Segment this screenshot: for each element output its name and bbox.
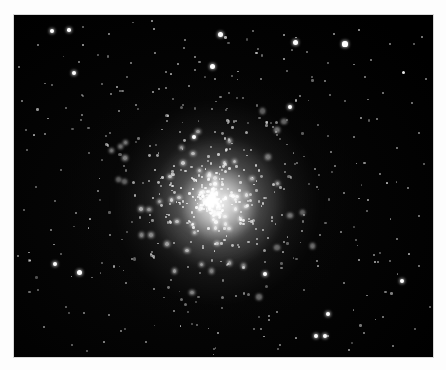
cluster-star: [238, 189, 241, 192]
cluster-star: [209, 195, 212, 198]
cluster-star: [211, 188, 213, 190]
cluster-star: [318, 174, 320, 176]
cluster-star: [275, 223, 276, 224]
halo-star: [311, 76, 313, 78]
halo-star: [386, 182, 388, 184]
cluster-star: [295, 258, 297, 260]
cluster-star: [230, 191, 233, 194]
cluster-star: [117, 178, 120, 181]
cluster-star: [203, 201, 207, 205]
cluster-star: [209, 202, 211, 204]
halo-star: [217, 332, 220, 335]
cluster-star: [290, 176, 293, 179]
cluster-star: [121, 239, 123, 241]
cluster-star: [253, 184, 255, 186]
cluster-star: [221, 209, 224, 212]
cluster-star: [244, 205, 248, 209]
cluster-star: [218, 230, 220, 232]
cluster-star: [261, 205, 262, 206]
cluster-star: [202, 245, 203, 246]
halo-star: [258, 316, 260, 318]
cluster-star: [210, 198, 212, 200]
halo-star: [389, 260, 391, 262]
cluster-star: [186, 222, 189, 225]
halo-star: [295, 37, 297, 39]
cluster-star: [211, 199, 213, 201]
halo-star: [73, 226, 74, 227]
cluster-star: [301, 230, 303, 232]
cluster-star: [258, 200, 260, 202]
cluster-star: [191, 211, 194, 214]
cluster-star: [226, 108, 227, 109]
halo-star: [374, 261, 375, 262]
cluster-star: [256, 243, 258, 245]
cluster-star: [252, 219, 255, 222]
cluster-star: [210, 198, 213, 201]
cluster-star: [211, 199, 214, 202]
cluster-star: [209, 200, 211, 202]
cluster-star: [293, 257, 295, 259]
halo-star: [71, 276, 73, 278]
cluster-star: [250, 177, 253, 180]
cluster-star: [243, 292, 245, 294]
cluster-star: [209, 198, 212, 201]
cluster-star: [238, 201, 240, 203]
cluster-star: [221, 211, 223, 213]
cluster-star: [239, 217, 242, 220]
cluster-star: [221, 296, 224, 299]
halo-star: [390, 292, 393, 295]
cluster-star: [202, 198, 206, 202]
cluster-star: [220, 242, 223, 245]
cluster-star: [142, 182, 144, 184]
halo-star: [329, 94, 331, 96]
cluster-star: [179, 131, 181, 133]
cluster-star: [213, 200, 216, 203]
cluster-star: [212, 197, 214, 199]
cluster-star: [152, 255, 155, 258]
cluster-star: [199, 191, 203, 195]
cluster-star: [229, 148, 231, 150]
cluster-star: [242, 223, 244, 225]
cluster-star: [166, 120, 168, 122]
cluster-star: [211, 203, 215, 207]
cluster-star: [185, 249, 188, 252]
photo-page: [0, 0, 446, 370]
cluster-star: [211, 204, 214, 207]
halo-star: [308, 100, 310, 102]
cluster-star: [212, 214, 215, 217]
cluster-star: [216, 207, 219, 210]
cluster-star: [301, 132, 304, 135]
cluster-star: [169, 220, 171, 222]
cluster-star: [234, 196, 235, 197]
cluster-star: [211, 192, 213, 194]
cluster-star: [212, 201, 216, 205]
halo-star: [88, 227, 90, 229]
halo-star: [83, 312, 85, 314]
cluster-star: [246, 155, 247, 156]
cluster-star: [173, 191, 176, 194]
cluster-star: [210, 197, 213, 200]
cluster-star: [211, 199, 213, 201]
halo-star: [351, 342, 353, 344]
cluster-star: [209, 203, 211, 205]
halo-star: [375, 319, 376, 320]
cluster-star: [184, 170, 186, 172]
halo-star: [246, 38, 248, 40]
cluster-star: [266, 121, 268, 123]
cluster-star: [212, 197, 215, 200]
halo-star: [319, 234, 321, 236]
cluster-star: [286, 242, 289, 245]
cluster-star: [209, 183, 212, 186]
cluster-star: [211, 188, 215, 192]
cluster-star: [176, 201, 178, 203]
cluster-star: [279, 138, 281, 140]
cluster-star: [149, 222, 150, 223]
cluster-star: [216, 194, 218, 196]
cluster-star: [229, 194, 232, 197]
cluster-star: [224, 163, 227, 166]
cluster-star: [211, 199, 213, 201]
cluster-star: [189, 221, 191, 223]
cluster-star: [180, 187, 181, 188]
cluster-star: [208, 204, 212, 208]
cluster-star: [211, 199, 215, 203]
